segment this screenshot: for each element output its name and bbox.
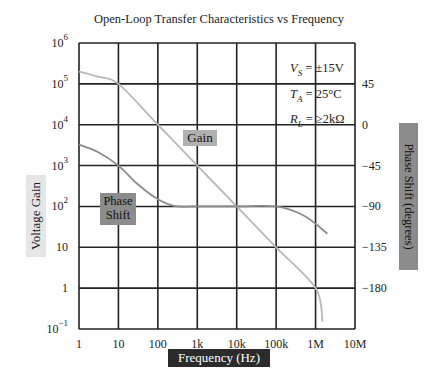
svg-text:0: 0	[362, 118, 368, 132]
svg-text:102: 102	[52, 195, 69, 213]
svg-text:100: 100	[149, 337, 167, 351]
conditions-annotation: VS = ±15V TA = 25°C RL = ≥2kΩ	[290, 58, 352, 135]
condition-rl: RL = ≥2kΩ	[290, 109, 352, 135]
svg-text:1: 1	[76, 337, 82, 351]
svg-text:10: 10	[56, 240, 68, 254]
phase-series-tag: Phase Shift	[100, 193, 136, 225]
svg-text:104: 104	[52, 114, 69, 132]
svg-text:−90: −90	[362, 199, 381, 213]
svg-text:−180: −180	[362, 281, 387, 295]
gain-series-tag: Gain	[183, 130, 217, 146]
svg-text:10M: 10M	[344, 337, 367, 351]
svg-text:105: 105	[52, 73, 69, 91]
svg-text:−135: −135	[362, 240, 387, 254]
svg-text:45: 45	[362, 77, 374, 91]
y-axis-label: Voltage Gain	[26, 175, 46, 257]
y2-axis-label: Phase Shift (degrees)	[399, 123, 418, 270]
x-axis-label: Frequency (Hz)	[168, 349, 270, 367]
svg-text:106: 106	[52, 32, 69, 50]
svg-text:10−1: 10−1	[46, 318, 68, 336]
svg-text:10: 10	[112, 337, 124, 351]
condition-ta: TA = 25°C	[290, 84, 352, 110]
svg-text:1: 1	[62, 281, 68, 295]
chart-canvas: 1101001k10k100k1M10M10610510410310210110…	[0, 0, 438, 385]
svg-text:−45: −45	[362, 159, 381, 173]
svg-text:1M: 1M	[307, 337, 324, 351]
condition-vs: VS = ±15V	[290, 58, 352, 84]
svg-text:103: 103	[52, 155, 69, 173]
